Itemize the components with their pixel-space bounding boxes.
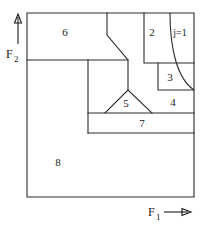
region-label-5: 5 (123, 97, 129, 109)
region-label-3: 3 (167, 71, 173, 83)
outer-frame (27, 13, 194, 197)
x-axis-label-subscript: 1 (156, 212, 161, 222)
x-axis-label: F (148, 205, 155, 219)
region-partition-diagram: 6 2 3 4 5 7 8 j=1 F 2 F 1 (0, 0, 204, 228)
y-axis-label: F (6, 47, 13, 61)
y-axis-label-subscript: 2 (14, 54, 19, 64)
boundary-zigzag (107, 13, 128, 90)
figure-container: 6 2 3 4 5 7 8 j=1 F 2 F 1 (0, 0, 204, 228)
region-label-7: 7 (139, 117, 145, 129)
region-label-8: 8 (55, 156, 61, 168)
curve-j-equals-1 (170, 13, 194, 90)
region-label-6: 6 (62, 26, 68, 38)
annotation-j-equals-1: j=1 (172, 27, 186, 38)
region-label-4: 4 (170, 96, 176, 108)
region-label-2: 2 (149, 26, 155, 38)
